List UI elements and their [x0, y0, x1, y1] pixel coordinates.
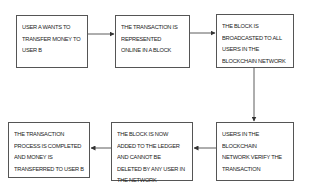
- step-4-users-verify: USERS IN THE BLOCKCHAIN NETWORK VERIFY T…: [216, 122, 294, 181]
- step-3-label: THE BLOCK IS BROADCASTED TO ALL USERS IN…: [222, 20, 289, 66]
- step-6-label: THE TRANSACTION PROCESS IS COMPLETED AND…: [14, 128, 85, 174]
- step-5-label: THE BLOCK IS NOW ADDED TO THE LEDGER AND…: [117, 128, 188, 186]
- step-2-label: THE TRANSACTION IS REPRESENTED ONLINE IN…: [121, 21, 185, 56]
- step-2-transaction-represented: THE TRANSACTION IS REPRESENTED ONLINE IN…: [115, 15, 190, 68]
- step-3-block-broadcasted: THE BLOCK IS BROADCASTED TO ALL USERS IN…: [216, 14, 294, 68]
- step-1-label: USER A WANTS TO TRANSFER MONEY TO USER B: [22, 21, 83, 56]
- step-4-label: USERS IN THE BLOCKCHAIN NETWORK VERIFY T…: [222, 128, 289, 174]
- step-6-transaction-completed: THE TRANSACTION PROCESS IS COMPLETED AND…: [8, 122, 90, 178]
- step-1-user-a-wants-to-transfer: USER A WANTS TO TRANSFER MONEY TO USER B: [16, 15, 88, 68]
- step-5-block-added-to-ledger: THE BLOCK IS NOW ADDED TO THE LEDGER AND…: [111, 122, 193, 181]
